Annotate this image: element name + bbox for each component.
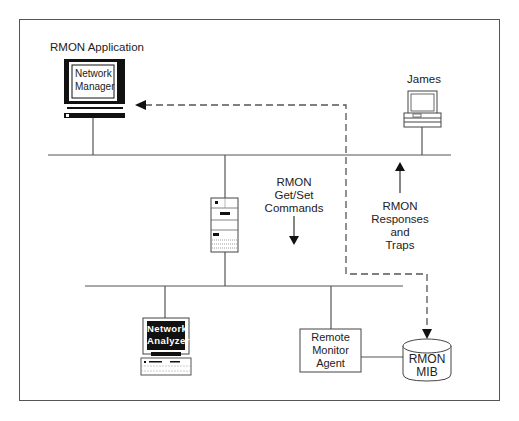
agent-label-line2: Monitor [300,343,361,357]
responses-label-line1: RMON [370,199,430,213]
responses-arrowhead [395,162,405,171]
commands-label-line2: Get/Set [264,188,324,202]
server-tower [211,198,238,252]
agent-label-line3: Agent [300,356,361,370]
commands-label-line3: Commands [259,201,329,215]
network-manager-screen-line1: Network [75,68,112,80]
responses-label-line4: Traps [370,238,430,252]
dashed-arrowhead-down [422,329,432,339]
agent-label-line1: Remote [300,330,361,344]
responses-label-line3: and [370,225,430,239]
james-caption: James [404,72,444,86]
mib-label-line2: MIB [403,365,451,379]
rmon-application-caption: RMON Application [50,40,144,54]
james-workstation [404,91,441,127]
network-manager-screen-line2: Manager [75,81,114,93]
mib-label-line1: RMON [403,352,451,366]
network-analyzer-screen-line1: Network [147,323,185,334]
responses-label-line2: Responses [365,212,435,226]
commands-label-line1: RMON [264,175,324,189]
commands-arrowhead [289,236,299,245]
dashed-arrowhead-left [135,100,146,110]
network-analyzer-screen-line2: Analyzer [147,335,185,346]
